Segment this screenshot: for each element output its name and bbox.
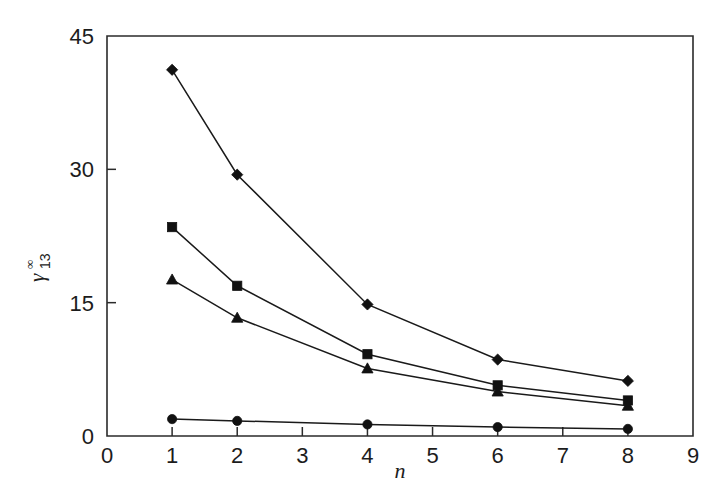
y-axis-title-subscript: 13: [37, 253, 53, 269]
figure-container: 0123456789 0153045 n γ ∞ 13: [0, 0, 727, 498]
x-tick-label-4: 4: [361, 443, 373, 468]
y-tick-label-15: 15: [70, 291, 94, 316]
x-tick-label-6: 6: [492, 443, 504, 468]
y-tick-label-0: 0: [82, 424, 94, 449]
x-tick-label-7: 7: [557, 443, 569, 468]
y-tick-label-45: 45: [70, 24, 94, 49]
series-square-marker: [363, 350, 372, 359]
x-tick-label-5: 5: [426, 443, 438, 468]
y-tick-label-30: 30: [70, 157, 94, 182]
series-circle-marker: [363, 420, 372, 429]
x-tick-label-3: 3: [296, 443, 308, 468]
x-tick-label-2: 2: [231, 443, 243, 468]
series-square-marker: [168, 223, 177, 232]
x-tick-label-1: 1: [166, 443, 178, 468]
series-circle-marker: [623, 424, 632, 433]
y-axis-title-symbol: γ: [25, 273, 49, 282]
x-tick-label-8: 8: [622, 443, 634, 468]
x-tick-label-0: 0: [101, 443, 113, 468]
line-chart: 0123456789 0153045 n γ ∞ 13: [0, 0, 727, 498]
series-square-marker: [233, 281, 242, 290]
x-axis-title: n: [395, 458, 406, 483]
x-tick-label-9: 9: [687, 443, 699, 468]
series-circle-marker: [168, 415, 177, 424]
series-circle-marker: [233, 416, 242, 425]
series-circle-marker: [493, 423, 502, 432]
y-axis-title-superscript: ∞: [22, 260, 37, 269]
